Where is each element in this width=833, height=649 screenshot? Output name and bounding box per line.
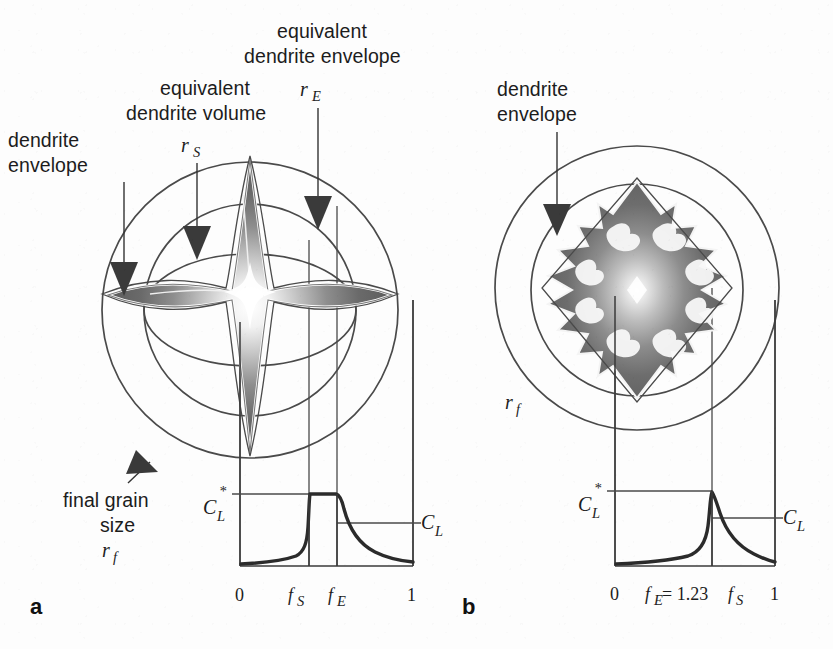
plot-a-tick-zero: 0	[235, 585, 244, 605]
plot-b-cstar-label: C L *	[578, 480, 602, 521]
symbol-re-a: r	[300, 78, 308, 100]
dendrite-envelope-label-line1: dendrite	[8, 129, 79, 151]
figure-container: dendrite envelope equivalent dendrite vo…	[0, 0, 833, 649]
symbol-rf-a: r	[102, 539, 110, 561]
plot-b-cl-symbol: C	[783, 506, 797, 528]
plot-b-tick-one: 1	[770, 584, 779, 604]
equivalent-dendrite-volume-arrowhead-a	[183, 226, 211, 260]
plot-a-cl-sub: L	[434, 523, 443, 539]
final-grain-size-label-line2: size	[100, 514, 135, 536]
symbol-rf-sub-a: f	[113, 549, 119, 565]
plot-a-concentration-curve	[241, 494, 413, 564]
symbol-rs-sub-a: S	[193, 144, 201, 160]
figure-svg: dendrite envelope equivalent dendrite vo…	[0, 0, 833, 649]
panel-a: dendrite envelope equivalent dendrite vo…	[8, 20, 443, 619]
symbol-rs-a: r	[181, 134, 189, 156]
plot-b-tick-zero: 0	[610, 584, 619, 604]
equivalent-dendrite-volume-label-line2: dendrite volume	[126, 102, 266, 124]
equivalent-dendrite-envelope-label-line2: dendrite envelope	[244, 45, 401, 67]
annotation-dendrite-envelope-b: dendrite envelope	[497, 78, 577, 236]
dendrite-envelope-label-line2-b: envelope	[497, 103, 577, 125]
annotation-dendrite-envelope-a: dendrite envelope	[8, 129, 138, 296]
plot-a-tick-fs: f S	[288, 585, 305, 609]
plot-a-tick-fs-sub: S	[297, 593, 305, 609]
dendrite-body-a	[108, 160, 392, 452]
plot-b-cl-label: C L	[783, 506, 805, 534]
plot-b-cstar-symbol: C	[578, 493, 592, 515]
symbol-rf-sub-b: f	[516, 401, 522, 417]
plot-b-cstar-superscript: *	[594, 480, 602, 496]
plot-b-tick-fe-relation-text: = 1.23	[662, 584, 708, 604]
equivalent-dendrite-envelope-arrowhead-a	[304, 196, 332, 230]
plot-b-tick-fe-symbol: f	[645, 584, 653, 604]
final-grain-size-arrowhead-a	[126, 450, 158, 474]
dendrite-envelope-arrowhead-b	[543, 204, 571, 236]
equivalent-dendrite-envelope-label-line1: equivalent	[277, 20, 367, 42]
plot-a-cstar-superscript: *	[219, 483, 227, 499]
annotation-equivalent-dendrite-envelope-a: equivalent dendrite envelope r E	[244, 20, 401, 230]
plot-b-cstar-sub: L	[591, 505, 600, 521]
equivalent-dendrite-volume-label-line1: equivalent	[160, 77, 250, 99]
plot-a-tick-fe-sub: E	[336, 593, 346, 609]
annotation-final-grain-size-a: final grain size r f	[63, 450, 158, 565]
panel-b-id: b	[462, 594, 475, 619]
plot-b-tick-fe-relation: f E = 1.23 f S	[645, 584, 744, 608]
plot-b-tick-fs-symbol: f	[728, 584, 736, 604]
plot-a-cstar-label: C L *	[203, 483, 227, 524]
plot-a-tick-fe: f E	[328, 585, 346, 609]
dendrite-envelope-label-line1-b: dendrite	[497, 78, 568, 100]
symbol-rf-b: r	[505, 391, 513, 413]
annotation-final-grain-size-b: r f	[505, 391, 522, 417]
symbol-re-sub-a: E	[311, 88, 321, 104]
plot-a-tick-fe-symbol: f	[328, 585, 336, 605]
construction-lines-a	[240, 206, 413, 566]
plot-b-concentration-curve	[616, 492, 775, 564]
dendrite-envelope-label-line2: envelope	[8, 154, 88, 176]
plot-a-cstar-sub: L	[216, 508, 225, 524]
plot-a-tick-fs-symbol: f	[288, 585, 296, 605]
plot-b-tick-fs-sub: S	[736, 592, 744, 608]
plot-a-cl-label: C L	[421, 511, 443, 539]
panel-b: dendrite envelope r f C L * C	[462, 78, 805, 619]
final-grain-size-label-line1: final grain	[63, 489, 149, 511]
plot-a-cstar-symbol: C	[203, 496, 217, 518]
plot-a-tick-one: 1	[407, 585, 416, 605]
plot-b-cl-sub: L	[796, 518, 805, 534]
plot-a-cl-symbol: C	[421, 511, 435, 533]
dendrite-body-b	[548, 182, 726, 398]
panel-a-id: a	[30, 594, 43, 619]
